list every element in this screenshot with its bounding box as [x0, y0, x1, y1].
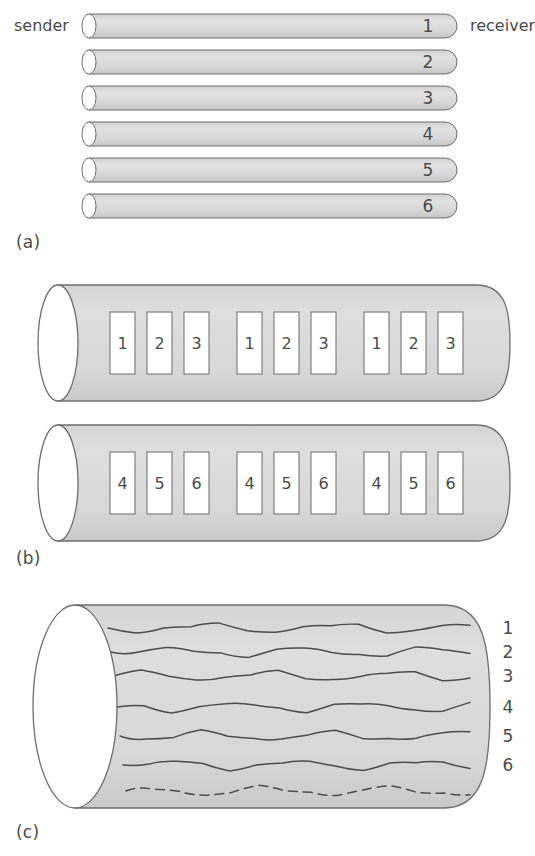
pipe-body — [89, 14, 457, 38]
thin-pipe-5: 5 — [82, 158, 457, 182]
channel-number-3: 3 — [423, 88, 434, 108]
thin-pipe-2: 2 — [82, 50, 457, 74]
pipe-body — [89, 50, 457, 74]
channel-number-2: 2 — [503, 642, 514, 662]
pipe-opening — [82, 86, 96, 110]
channel-number-6: 6 — [503, 755, 514, 775]
slot-label-6: 6 — [191, 474, 201, 493]
slot-label-3: 3 — [318, 334, 328, 353]
slot-label-6: 6 — [445, 474, 455, 493]
slot-label-4: 4 — [117, 474, 127, 493]
pipe-lower: 456456456 — [38, 425, 510, 541]
slot-label-5: 5 — [408, 474, 418, 493]
slot-label-4: 4 — [371, 474, 381, 493]
slot-label-3: 3 — [191, 334, 201, 353]
slot-label-1: 1 — [117, 334, 127, 353]
channel-number-4: 4 — [423, 124, 434, 144]
channel-number-5: 5 — [503, 726, 514, 746]
thin-pipe-3: 3 — [82, 86, 457, 110]
pipe-opening — [38, 425, 78, 541]
thin-pipe-4: 4 — [82, 122, 457, 146]
slot-label-1: 1 — [371, 334, 381, 353]
channel-number-5: 5 — [423, 160, 434, 180]
slot-label-4: 4 — [244, 474, 254, 493]
slot-label-2: 2 — [154, 334, 164, 353]
part-c-label: (c) — [16, 822, 39, 842]
slot-label-5: 5 — [154, 474, 164, 493]
pipe-opening — [33, 605, 117, 808]
channel-number-1: 1 — [503, 618, 514, 638]
channel-number-1: 1 — [423, 16, 434, 36]
pipe-upper: 123123123 — [38, 285, 510, 401]
pipe-opening — [82, 122, 96, 146]
receiver-label: receiver — [470, 16, 535, 35]
part-b-pipes: 123123123456456456 — [38, 285, 510, 541]
pipe-opening — [38, 285, 78, 401]
sender-label: sender — [14, 16, 69, 35]
pipe-opening — [82, 194, 96, 218]
pipe-body — [89, 158, 457, 182]
slot-label-3: 3 — [445, 334, 455, 353]
part-c-pipe: 123456 — [33, 605, 513, 808]
pipe-body — [89, 86, 457, 110]
thin-pipe-1: 1 — [82, 14, 457, 38]
part-b-label: (b) — [16, 548, 41, 568]
pipe-body — [89, 122, 457, 146]
pipe-body — [75, 605, 490, 808]
part-a-pipes: 123456 — [82, 14, 457, 218]
slot-label-1: 1 — [244, 334, 254, 353]
pipe-body — [89, 194, 457, 218]
slot-label-2: 2 — [408, 334, 418, 353]
slot-label-5: 5 — [281, 474, 291, 493]
channel-number-3: 3 — [503, 666, 514, 686]
part-a-label: (a) — [16, 232, 40, 252]
channel-number-6: 6 — [423, 196, 434, 216]
pipe-opening — [82, 50, 96, 74]
slot-label-2: 2 — [281, 334, 291, 353]
thin-pipe-6: 6 — [82, 194, 457, 218]
pipe-opening — [82, 158, 96, 182]
pipe-opening — [82, 14, 96, 38]
slot-label-6: 6 — [318, 474, 328, 493]
channel-number-4: 4 — [503, 697, 514, 717]
channel-number-2: 2 — [423, 52, 434, 72]
